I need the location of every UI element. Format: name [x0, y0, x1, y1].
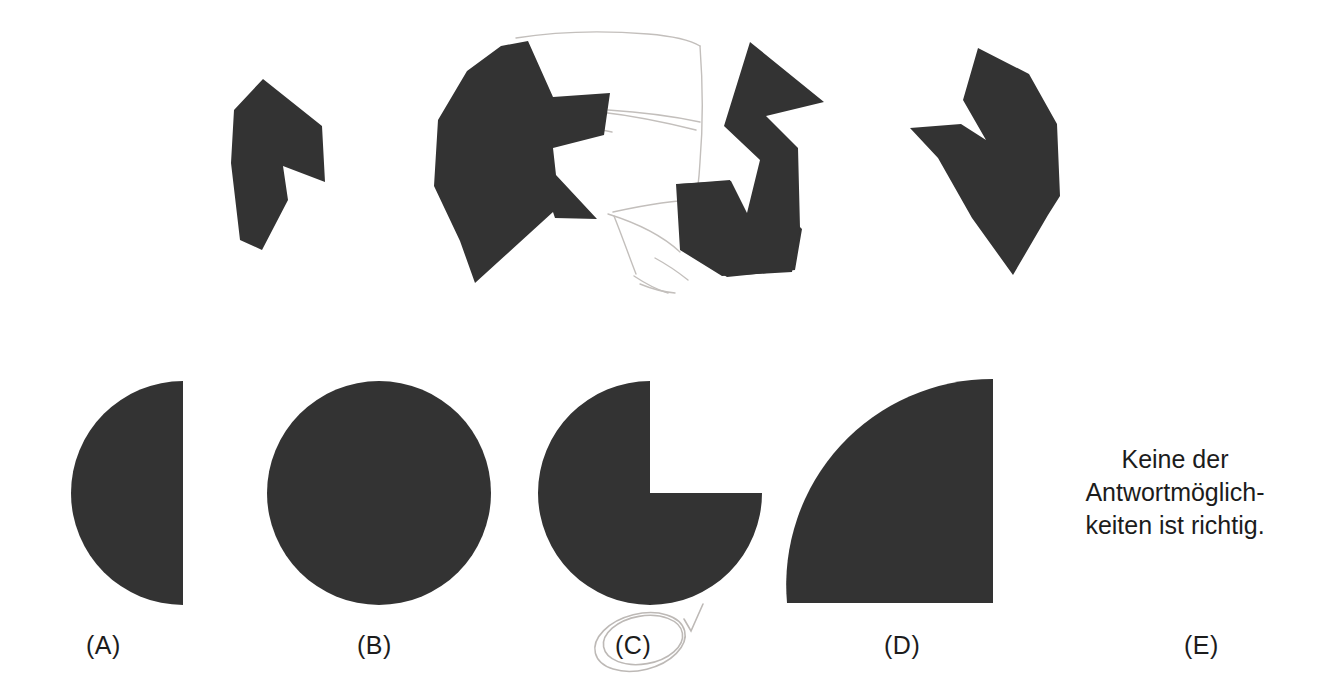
none-text-line-2: Antwortmöglich- — [1055, 476, 1295, 509]
test-item-page: (A) (B) (C) (D) (E) Keine der Antwortmög… — [0, 0, 1319, 698]
option-label-b[interactable]: (B) — [357, 633, 392, 658]
option-label-a[interactable]: (A) — [86, 633, 121, 658]
option-label-d[interactable]: (D) — [884, 633, 920, 658]
option-label-c[interactable]: (C) — [615, 633, 651, 658]
none-of-the-above-text[interactable]: Keine der Antwortmöglich- keiten ist ric… — [1055, 443, 1295, 542]
pencil-annotations — [0, 0, 1319, 698]
option-label-e[interactable]: (E) — [1184, 633, 1219, 658]
pencil-checkmark-icon — [684, 604, 703, 631]
none-text-line-1: Keine der — [1055, 443, 1295, 476]
none-text-line-3: keiten ist richtig. — [1055, 509, 1295, 542]
